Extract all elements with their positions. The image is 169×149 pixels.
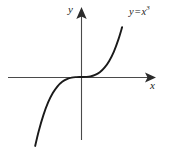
equation-variable: y [129,6,134,17]
equation-operator: = [134,6,142,17]
y-axis-label: y [68,4,73,15]
graph-curve-overlay [0,0,169,149]
x-axis-label: x [150,80,155,91]
cubic-function-graph: y x y=x3 [0,0,169,149]
curve-equation-label: y=x3 [129,5,150,17]
equation-exponent: 3 [146,4,150,12]
